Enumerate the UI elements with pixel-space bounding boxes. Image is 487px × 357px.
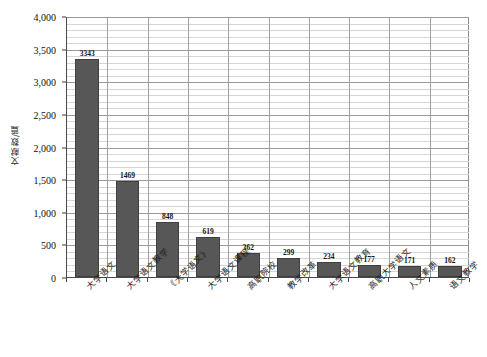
y-axis-tick-labels: 05001,0001,5002,0002,5003,0003,5004,000 xyxy=(26,17,62,278)
bar[interactable] xyxy=(116,181,139,277)
bar-value-label: 848 xyxy=(148,212,188,221)
bar-value-label: 3343 xyxy=(67,49,107,58)
bar-series: 33431469848619362299234177171162 xyxy=(67,17,469,277)
x-axis-tick-labels: 大学语文大学语文教学《大学语文》大学语文课程高职院校教学改革大学语文教育高职大学… xyxy=(66,281,469,357)
bar-slot: 1469 xyxy=(107,17,147,277)
y-axis-tick-label: 3,000 xyxy=(34,77,57,88)
bar-value-label: 234 xyxy=(309,252,349,261)
x-axis-tick-mark xyxy=(469,278,470,282)
y-axis-tick-label: 2,500 xyxy=(34,109,57,120)
bar-slot: 162 xyxy=(430,17,470,277)
bar-slot: 234 xyxy=(309,17,349,277)
bar[interactable] xyxy=(75,59,98,277)
bar-slot: 848 xyxy=(148,17,188,277)
y-axis-tick-label: 2,000 xyxy=(34,142,57,153)
bar-slot: 171 xyxy=(389,17,429,277)
y-axis-title-text: 文献数/篇 xyxy=(10,124,22,165)
bar-value-label: 619 xyxy=(188,227,228,236)
y-axis-tick-label: 3,500 xyxy=(34,44,57,55)
bar-slot: 177 xyxy=(349,17,389,277)
bar-chart: 文献数/篇 05001,0001,5002,0002,5003,0003,500… xyxy=(0,0,487,357)
y-axis-tick-label: 1,000 xyxy=(34,207,57,218)
bar-slot: 299 xyxy=(269,17,309,277)
bar-slot: 362 xyxy=(228,17,268,277)
bar-value-label: 299 xyxy=(269,248,309,257)
y-axis-title: 文献数/篇 xyxy=(6,0,26,290)
plot-area: 33431469848619362299234177171162 xyxy=(66,17,469,278)
y-axis-tick-label: 500 xyxy=(41,240,56,251)
y-axis-tick-label: 1,500 xyxy=(34,175,57,186)
bar-value-label: 1469 xyxy=(107,171,147,180)
bar-slot: 619 xyxy=(188,17,228,277)
y-axis-tick-label: 0 xyxy=(51,273,56,284)
y-axis-tick-label: 4,000 xyxy=(34,12,57,23)
bar-slot: 3343 xyxy=(67,17,107,277)
